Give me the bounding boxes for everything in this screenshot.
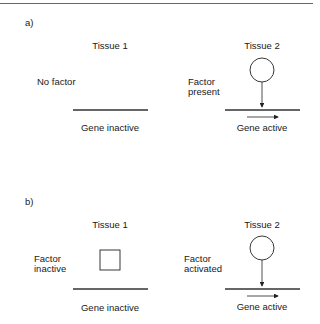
tissue1-title-a: Tissue 1: [92, 40, 128, 51]
gene-label-b-tissue1: Gene inactive: [81, 302, 139, 313]
factor-circle-b-tissue2: [250, 236, 274, 260]
factor-label-b-tissue1-line2: inactive: [34, 263, 66, 274]
tissue1-title-b: Tissue 1: [92, 219, 128, 230]
gene-label-a-tissue1: Gene inactive: [81, 122, 139, 133]
factor-label-a-tissue1: No factor: [37, 76, 76, 87]
tissue2-title-b: Tissue 2: [244, 219, 280, 230]
factor-square-b-tissue1: [100, 250, 120, 270]
gene-label-a-tissue2: Gene active: [237, 122, 288, 133]
panel-label-a: a): [25, 17, 33, 28]
factor-label-b-tissue2-line2: activated: [184, 263, 222, 274]
factor-label-a-tissue2-line2: present: [188, 86, 220, 97]
gene-label-b-tissue2: Gene active: [237, 301, 288, 312]
panel-label-b: b): [25, 196, 33, 207]
tissue2-title-a: Tissue 2: [244, 40, 280, 51]
factor-circle-a-tissue2: [250, 58, 274, 82]
